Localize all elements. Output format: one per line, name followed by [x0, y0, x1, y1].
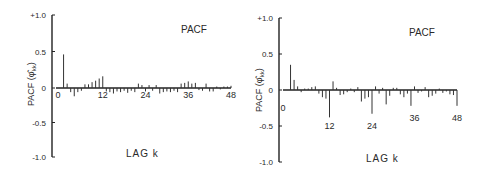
- y-label-close: ): [254, 68, 264, 71]
- x-tick-label: 24: [367, 121, 377, 131]
- y-tick-label: -0.5: [32, 119, 46, 128]
- x-tick-label: 12: [324, 121, 334, 131]
- svg-text:PACF (φ̂kk): PACF (φ̂kk): [26, 62, 37, 106]
- y-tick-label: -1.0: [259, 158, 273, 167]
- y-tick-label: 0: [269, 86, 274, 95]
- y-tick-label: -0.5: [259, 122, 273, 131]
- x-axis-label: LAG k: [366, 153, 399, 164]
- x-tick-label: 48: [226, 90, 236, 100]
- y-label-close: ): [26, 62, 36, 65]
- x-axis-label: LAG k: [126, 148, 159, 159]
- chart-title: PACF: [409, 27, 435, 38]
- pacf-figure: PACF LAG k PACF (φ̂kk) +1.00.50-0.5-1.0 …: [0, 0, 489, 181]
- y-tick-label: -1.0: [32, 153, 46, 162]
- y-tick-label: 0.5: [35, 48, 47, 57]
- x-tick-label: 12: [98, 90, 108, 100]
- figure: PACF LAG k PACF (φ̂kk) +1.00.50-0.5-1.0 …: [0, 0, 489, 181]
- x-tick-label: 36: [183, 90, 193, 100]
- y-tick-label: 0.5: [262, 50, 274, 59]
- y-tick-label: 0: [42, 84, 47, 93]
- bars: [291, 65, 457, 118]
- x-tick-label: 24: [140, 90, 150, 100]
- x-tick-label: 36: [409, 113, 419, 123]
- pacf-chart-right: PACF LAG k PACF (φ̂kk) +1.00.50-0.5-1.0 …: [254, 14, 462, 167]
- y-axis-label: PACF (φ̂kk): [26, 62, 37, 106]
- pacf-chart-left: PACF LAG k PACF (φ̂kk) +1.00.50-0.5-1.0 …: [26, 11, 236, 162]
- y-label-text: PACF (: [254, 83, 264, 112]
- y-tick-label: +1.0: [30, 11, 46, 20]
- x-axis: 012243648: [280, 90, 462, 131]
- x-tick-label: 0: [280, 103, 285, 113]
- y-tick-label: +1.0: [257, 14, 273, 23]
- y-axis-label: PACF (φ̂kk): [254, 68, 265, 112]
- chart-title: PACF: [181, 24, 207, 35]
- svg-text:PACF (φ̂kk): PACF (φ̂kk): [254, 68, 265, 112]
- x-tick-label: 0: [55, 90, 60, 100]
- y-label-text: PACF (: [26, 77, 36, 106]
- x-tick-label: 48: [452, 113, 462, 123]
